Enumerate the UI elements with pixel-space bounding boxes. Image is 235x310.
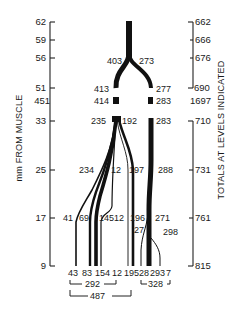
bottom-label-83: 83	[82, 268, 92, 278]
right-tick-1697: 1697	[190, 95, 211, 106]
right-tick-662: 662	[195, 16, 211, 27]
bottom-label-43: 43	[68, 268, 78, 278]
bottom-label-154: 154	[95, 268, 110, 278]
right-tick-761: 761	[195, 212, 211, 223]
bracket-328: 328	[141, 279, 170, 289]
left-tick-62: 62	[35, 16, 46, 27]
left-tick-9: 9	[41, 260, 46, 271]
left-tick-59: 59	[35, 34, 46, 45]
label-414: 414	[94, 96, 109, 106]
label-403: 403	[107, 56, 122, 66]
label-235: 235	[91, 116, 106, 126]
right-tick-731: 731	[195, 164, 211, 175]
label-234: 234	[79, 165, 94, 175]
bracket-label-487: 487	[90, 291, 105, 301]
right-tick-815: 815	[195, 260, 211, 271]
label-192: 192	[122, 116, 137, 126]
label-273: 273	[139, 56, 154, 66]
right-tick-666: 666	[195, 34, 211, 45]
label-288: 288	[158, 165, 173, 175]
bracket-292: 292	[70, 279, 116, 289]
left-tick-25: 25	[35, 164, 46, 175]
bottom-label-12: 12	[112, 268, 122, 278]
left-tick-17: 17	[35, 212, 46, 223]
left-axis-tick-labels: 62 59 56 51 451 33 25 17 9	[34, 16, 50, 271]
label-197: 197	[129, 165, 144, 175]
bottom-label-7: 7	[166, 268, 171, 278]
label-12-upper: 12	[111, 165, 121, 175]
fiber-break-markers	[113, 97, 153, 104]
bottom-labels: 43 83 154 12 195 28 293 7	[68, 268, 171, 278]
right-axis-label: TOTALS AT LEVELS INDICATED	[216, 60, 226, 199]
fiber-trunk	[116, 21, 151, 88]
label-41: 41	[63, 213, 73, 223]
bottom-label-195: 195	[124, 268, 139, 278]
label-283-upper: 283	[156, 96, 171, 106]
left-axis	[50, 22, 55, 266]
left-tick-56: 56	[35, 52, 46, 63]
left-tick-451: 451	[34, 95, 50, 106]
label-27: 27	[134, 225, 144, 235]
left-tick-33: 33	[35, 115, 46, 126]
left-axis-label: mm FROM MUSCLE	[14, 95, 24, 182]
label-271: 271	[155, 213, 170, 223]
fiber-right-bundle	[141, 118, 160, 266]
bottom-label-293: 293	[150, 268, 165, 278]
right-tick-676: 676	[195, 52, 211, 63]
label-413: 413	[94, 84, 109, 94]
label-69: 69	[79, 213, 89, 223]
label-196: 196	[130, 213, 145, 223]
label-12-lower: 12	[114, 213, 124, 223]
fiber-left-bundle	[76, 116, 133, 266]
right-tick-690: 690	[194, 82, 210, 93]
bracket-label-292: 292	[85, 279, 100, 289]
right-tick-710: 710	[195, 115, 211, 126]
bracket-label-328: 328	[148, 279, 163, 289]
bottom-label-28: 28	[139, 268, 149, 278]
left-tick-51: 51	[35, 82, 46, 93]
label-145: 145	[99, 213, 114, 223]
bracket-487: 487	[70, 290, 131, 301]
label-298: 298	[163, 227, 178, 237]
label-283-lower: 283	[156, 116, 171, 126]
right-axis	[188, 22, 193, 266]
nerve-branching-diagram: 62 59 56 51 451 33 25 17 9 mm FROM MUSCL…	[0, 0, 235, 310]
label-277: 277	[156, 84, 171, 94]
